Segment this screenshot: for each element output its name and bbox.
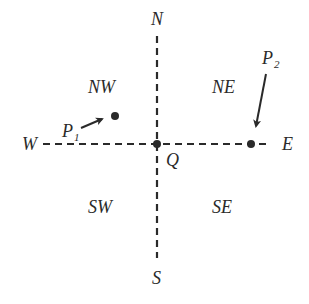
- diagram-canvas: N S W E NW NE SW SE Q P 1 P 2: [0, 0, 309, 304]
- origin-label: Q: [166, 150, 179, 170]
- quadrant-ne-label: NE: [211, 77, 235, 97]
- west-label: W: [22, 134, 39, 154]
- p2-arrow: [256, 74, 266, 126]
- east-label: E: [281, 134, 293, 154]
- p2-subscript: 2: [274, 58, 280, 70]
- p1-arrow: [81, 119, 102, 128]
- p1-subscript: 1: [74, 131, 80, 143]
- south-label: S: [152, 268, 161, 288]
- p1-label: P: [61, 121, 73, 141]
- quadrant-se-label: SE: [212, 197, 232, 217]
- quadrant-sw-label: SW: [88, 197, 114, 217]
- north-label: N: [150, 9, 164, 29]
- point-p1: [111, 112, 119, 120]
- p2-label: P: [261, 48, 273, 68]
- origin-point: [153, 140, 161, 148]
- point-p2: [247, 140, 255, 148]
- compass-diagram: N S W E NW NE SW SE Q P 1 P 2: [0, 0, 309, 304]
- quadrant-nw-label: NW: [87, 77, 117, 97]
